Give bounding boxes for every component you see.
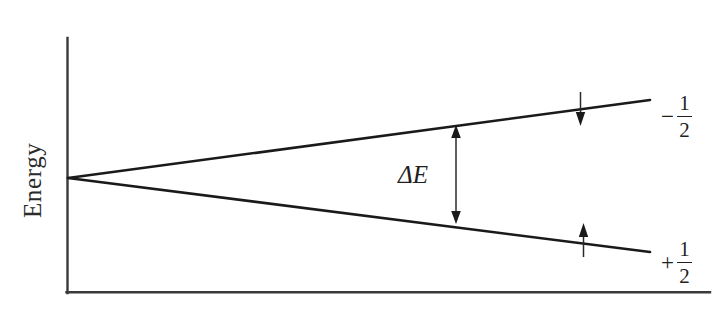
lower-state-label: + 1 2 [661,238,692,287]
lower-state-numerator: 1 [677,238,692,260]
upper-state-fraction-bar [677,116,692,118]
lower-state-fraction: 1 2 [677,238,692,287]
energy-splitting-figure: Energy ΔE − 1 2 + 1 2 [0,0,726,313]
figure-canvas [0,0,726,313]
delta-e-arrow-head-down [451,211,461,224]
lower-energy-level-line [68,178,650,252]
spin-up-arrow [579,223,588,257]
upper-state-fraction: 1 2 [677,92,692,141]
y-axis-label: Energy [20,143,45,218]
lower-state-sign: + [661,251,674,274]
spin-down-arrow-head [576,112,585,126]
spin-up-arrow-head [579,223,588,237]
upper-state-label: − 1 2 [661,92,692,141]
upper-state-denominator: 2 [677,119,692,141]
upper-state-sign: − [661,105,674,128]
upper-state-numerator: 1 [677,92,692,114]
lower-state-fraction-bar [677,262,692,264]
lower-state-denominator: 2 [677,265,692,287]
delta-e-arrow [451,125,461,224]
delta-e-label: ΔE [398,162,428,187]
upper-energy-level-line [68,100,650,178]
